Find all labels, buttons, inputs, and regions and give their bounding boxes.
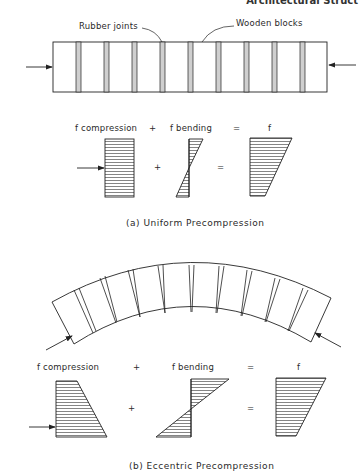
eq-a-term-bending: f bending <box>170 123 212 133</box>
eq-a-equals-label: = <box>233 123 240 133</box>
label-rubber-joints: Rubber joints <box>79 21 138 31</box>
stress-diagram-a-compression <box>77 139 134 197</box>
eq-a-plus-label: + <box>149 123 156 133</box>
eq-b-plus-label: + <box>133 362 140 372</box>
caption-a: (a) Uniform Precompression <box>126 218 264 228</box>
label-wooden-blocks: Wooden blocks <box>236 18 303 28</box>
stress-diagram-b-result <box>276 378 326 436</box>
eq-b-term-bending: f bending <box>172 362 214 372</box>
eq-b-equals-label: = <box>247 362 254 372</box>
arch-left-force-arrow <box>46 336 72 350</box>
eq-b-term-compression: f compression <box>37 362 99 372</box>
stress-diagram-b-compression <box>29 381 107 437</box>
diagram-canvas <box>0 0 362 476</box>
eq-b-plus-symbol: + <box>128 403 135 413</box>
rubber-joints-leader <box>142 28 162 42</box>
eq-a-result-label: f <box>268 123 271 133</box>
arch-block-beam <box>52 262 331 344</box>
caption-b: (b) Eccentric Precompression <box>129 461 274 471</box>
eq-a-plus-symbol: + <box>154 162 161 172</box>
eq-b-result-label: f <box>297 362 300 372</box>
arch-right-force-arrow <box>315 333 341 347</box>
stress-diagram-b-bending <box>156 379 229 437</box>
eq-a-term-compression: f compression <box>75 123 137 133</box>
wooden-blocks-leader <box>202 26 234 42</box>
straight-block-beam <box>53 42 327 92</box>
eq-b-equals-symbol: = <box>247 403 254 413</box>
stress-diagram-a-bending <box>176 139 203 197</box>
stress-diagram-a-result <box>250 138 292 196</box>
eq-a-equals-symbol: = <box>217 162 224 172</box>
